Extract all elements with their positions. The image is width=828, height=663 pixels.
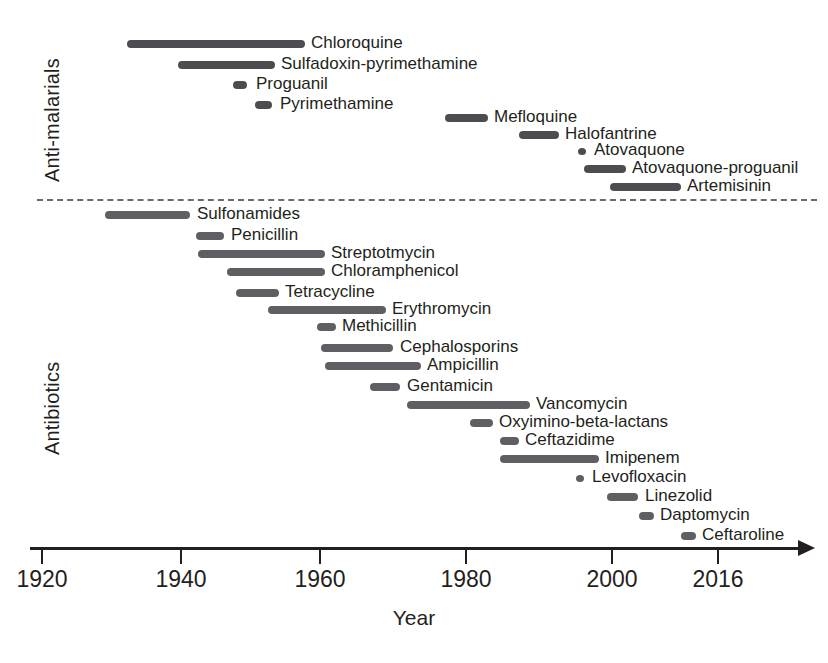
x-axis-tick xyxy=(465,550,467,564)
timeline-bar-label: Chloroquine xyxy=(311,33,403,53)
timeline-bar xyxy=(317,323,336,331)
x-axis-line xyxy=(30,547,802,550)
timeline-row: Imipenem xyxy=(0,451,828,469)
timeline-bar-label: Tetracycline xyxy=(285,282,375,302)
timeline-bar-label: Proguanil xyxy=(256,74,328,94)
x-axis-tick xyxy=(319,550,321,564)
timeline-row: Gentamicin xyxy=(0,379,828,397)
timeline-bar-label: Imipenem xyxy=(605,448,680,468)
timeline-chart: Anti-malarials Antibiotics ChloroquineSu… xyxy=(0,0,828,663)
timeline-bar-label: Penicillin xyxy=(231,225,298,245)
timeline-bar-label: Gentamicin xyxy=(407,376,493,396)
timeline-bar-label: Ceftaroline xyxy=(702,525,784,545)
timeline-bar-label: Levofloxacin xyxy=(592,467,687,487)
x-axis-tick-label: 2016 xyxy=(692,566,743,593)
timeline-bar xyxy=(178,61,275,69)
timeline-bar xyxy=(470,419,493,427)
timeline-bar-label: Artemisinin xyxy=(687,176,771,196)
x-axis-arrow-icon xyxy=(798,540,815,556)
timeline-bar-label: Streptotmycin xyxy=(331,243,435,263)
timeline-bar xyxy=(576,475,584,482)
section-divider xyxy=(37,199,817,201)
timeline-row: Ampicillin xyxy=(0,358,828,376)
timeline-bar xyxy=(519,131,559,139)
timeline-row: Ceftaroline xyxy=(0,528,828,546)
timeline-bar-label: Oxyimino-beta-lactans xyxy=(499,412,668,432)
timeline-bar xyxy=(325,362,421,370)
x-axis-tick xyxy=(611,550,613,564)
timeline-bar xyxy=(321,344,393,352)
timeline-row: Daptomycin xyxy=(0,508,828,526)
timeline-bar xyxy=(578,148,586,155)
timeline-row: Proguanil xyxy=(0,77,828,95)
timeline-row: Sulfadoxin-pyrimethamine xyxy=(0,57,828,75)
timeline-bar-label: Chloramphenicol xyxy=(331,261,459,281)
x-axis-tick-label: 2000 xyxy=(586,566,637,593)
timeline-bar xyxy=(268,306,386,314)
timeline-bar-label: Sulfonamides xyxy=(197,204,300,224)
timeline-bar xyxy=(255,101,272,109)
timeline-row: Cephalosporins xyxy=(0,340,828,358)
timeline-bar-label: Ampicillin xyxy=(427,355,499,375)
x-axis-tick xyxy=(180,550,182,564)
x-axis-tick-label: 1960 xyxy=(294,566,345,593)
timeline-bar xyxy=(407,401,530,409)
timeline-bar xyxy=(610,183,681,191)
timeline-bar xyxy=(500,437,519,445)
timeline-row: Ceftazidime xyxy=(0,433,828,451)
timeline-row: Chloroquine xyxy=(0,36,828,54)
timeline-bar xyxy=(105,211,190,219)
timeline-row: Chloramphenicol xyxy=(0,264,828,282)
timeline-bar xyxy=(227,268,325,276)
timeline-bar-label: Daptomycin xyxy=(660,505,750,525)
timeline-bar xyxy=(607,493,638,501)
timeline-bar xyxy=(584,165,626,173)
timeline-bar xyxy=(639,512,654,520)
x-axis-tick-label: 1980 xyxy=(440,566,491,593)
x-axis-tick-label: 1920 xyxy=(16,566,67,593)
timeline-bar xyxy=(196,232,224,240)
timeline-bar xyxy=(236,289,279,297)
timeline-bar-label: Vancomycin xyxy=(536,394,627,414)
timeline-bar xyxy=(445,114,488,122)
timeline-bar-label: Cephalosporins xyxy=(400,337,518,357)
timeline-bar xyxy=(233,81,247,89)
timeline-bar xyxy=(681,532,696,540)
timeline-bar xyxy=(500,455,599,463)
timeline-bar-label: Methicillin xyxy=(342,316,417,336)
timeline-bar xyxy=(370,383,400,391)
timeline-row: Artemisinin xyxy=(0,179,828,197)
x-axis-tick-label: 1940 xyxy=(155,566,206,593)
timeline-bar-label: Atovaquone-proguanil xyxy=(632,158,798,178)
x-axis-title: Year xyxy=(0,606,828,630)
x-axis-tick xyxy=(717,550,719,564)
x-axis-tick xyxy=(41,550,43,564)
timeline-bar xyxy=(198,250,325,258)
timeline-bar xyxy=(127,40,305,48)
timeline-bar-label: Ceftazidime xyxy=(525,430,615,450)
timeline-row: Methicillin xyxy=(0,319,828,337)
timeline-row: Sulfonamides xyxy=(0,207,828,225)
timeline-bar-label: Linezolid xyxy=(645,486,712,506)
timeline-row: Vancomycin xyxy=(0,397,828,415)
timeline-row: Oxyimino-beta-lactans xyxy=(0,415,828,433)
timeline-row: Mefloquine xyxy=(0,110,828,128)
timeline-bar-label: Atovaquone xyxy=(594,140,685,160)
timeline-bar-label: Sulfadoxin-pyrimethamine xyxy=(281,54,478,74)
